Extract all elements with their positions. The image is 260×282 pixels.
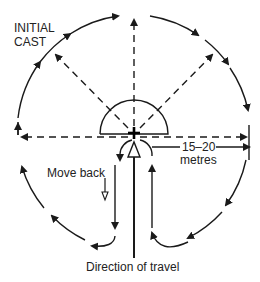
distance-label-line2: metres <box>180 153 217 167</box>
direction-arrow <box>128 142 140 258</box>
move-back-arrow <box>102 178 108 200</box>
distance-label-line1: 15–20 <box>182 140 216 154</box>
right-hook <box>152 233 188 247</box>
initial-cast-label-line2: CAST <box>14 35 47 49</box>
handler-cross-icon <box>128 127 140 139</box>
right-turn-curve <box>140 140 152 156</box>
initial-cast-label-line1: INITIAL <box>14 21 55 35</box>
radial-casts <box>22 20 246 137</box>
left-hook <box>92 236 115 246</box>
move-back-label: Move back <box>47 166 106 180</box>
direction-label: Direction of travel <box>86 260 179 274</box>
casting-diagram: INITIAL CAST 15–20 metres Move back Dire… <box>0 0 260 282</box>
